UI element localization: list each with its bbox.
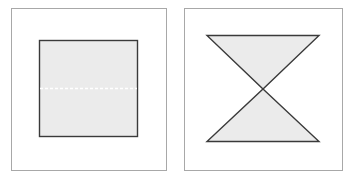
hourglass-top-triangle <box>207 36 319 90</box>
figure-canvas <box>0 0 352 177</box>
hourglass-bottom-triangle <box>207 89 319 142</box>
